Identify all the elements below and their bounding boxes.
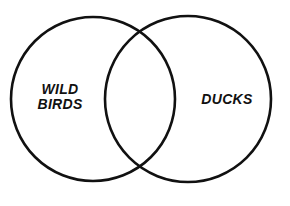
wild-birds-label-line-1: WILD xyxy=(28,82,92,97)
ducks-label: DUCKS xyxy=(192,92,262,107)
ducks-label-line-1: DUCKS xyxy=(192,92,262,107)
wild-birds-label-line-2: BIRDS xyxy=(28,97,92,112)
wild-birds-label: WILD BIRDS xyxy=(28,82,92,112)
